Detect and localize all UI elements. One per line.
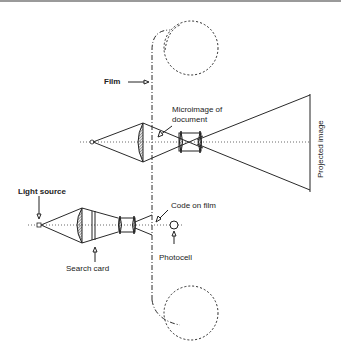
label-film: Film	[104, 77, 120, 86]
photocell-arrow	[172, 231, 176, 244]
light-source-arrow	[37, 196, 41, 219]
search-card-arrow	[93, 247, 97, 262]
film-reel-top	[164, 21, 218, 75]
lower-light-source	[37, 223, 41, 227]
label-search-card: Search card	[66, 264, 109, 273]
film-strip	[152, 30, 180, 325]
label-projected-image: Projected image	[316, 120, 325, 178]
photocell	[170, 221, 178, 229]
diagram-canvas	[0, 0, 341, 360]
label-photocell: Photocell	[159, 253, 192, 262]
code-on-film-arrow	[156, 210, 168, 222]
microimage-arrow	[158, 126, 172, 137]
film-arrow	[128, 80, 149, 84]
film-reel-bottom	[164, 286, 218, 340]
label-microimage-line2: document	[172, 115, 207, 124]
label-microimage-line1: Microimage of	[172, 105, 222, 114]
label-code-on-film: Code on film	[171, 201, 216, 210]
label-light-source: Light source	[18, 187, 66, 196]
upper-condenser-lens	[138, 123, 143, 162]
lower-condenser-lens	[77, 208, 82, 243]
search-card	[92, 211, 95, 240]
